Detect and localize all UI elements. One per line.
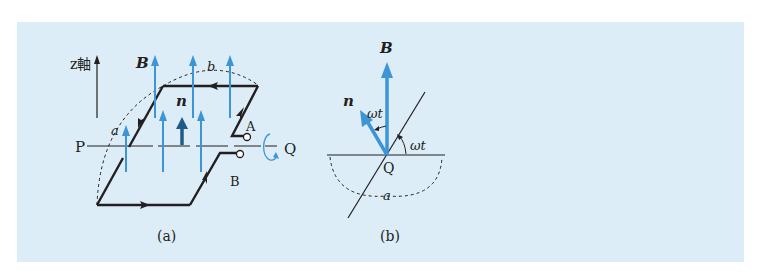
side-b-label: b — [207, 59, 215, 74]
magnetic-field-arrows — [122, 55, 234, 172]
terminal-b-label: B — [230, 174, 240, 189]
terminal-a — [244, 134, 251, 141]
rotation-arrow-icon — [264, 134, 279, 160]
angle-arc-n — [374, 126, 386, 131]
terminal-a-label: A — [245, 119, 256, 134]
normal-n-label-b: n — [343, 92, 354, 110]
point-q-label: Q — [284, 140, 296, 158]
side-a-label-b: a — [383, 188, 391, 203]
panel-a: z軸 — [70, 54, 296, 244]
normal-vector-arrow — [176, 117, 188, 145]
field-b-label: B — [135, 54, 149, 72]
panel-b: B n ωt ωt Q a (b) — [327, 39, 445, 244]
point-p-label: P — [75, 138, 85, 156]
caption-b: (b) — [380, 228, 400, 244]
angle-arc-horizontal — [397, 134, 406, 154]
z-axis-label: z軸 — [70, 56, 91, 72]
field-b-label-b: B — [379, 39, 393, 57]
physics-figure: z軸 — [0, 0, 762, 278]
angle-label-n: ωt — [367, 106, 384, 121]
center-q-label: Q — [383, 160, 394, 176]
caption-a: (a) — [157, 228, 176, 244]
angle-label-horizontal: ωt — [410, 138, 427, 153]
side-a-label: a — [111, 123, 119, 138]
terminal-b — [237, 151, 244, 158]
z-axis-arrow-icon — [94, 55, 100, 118]
normal-n-label: n — [176, 92, 187, 110]
